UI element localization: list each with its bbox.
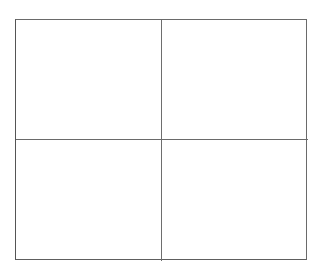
quadrant-grid <box>15 19 307 260</box>
quadrant-bottom-left[interactable] <box>16 140 162 261</box>
quadrant-top-left[interactable] <box>16 20 162 140</box>
quadrant-bottom-right[interactable] <box>162 140 308 261</box>
quadrant-top-right[interactable] <box>162 20 308 140</box>
canvas <box>0 0 323 271</box>
